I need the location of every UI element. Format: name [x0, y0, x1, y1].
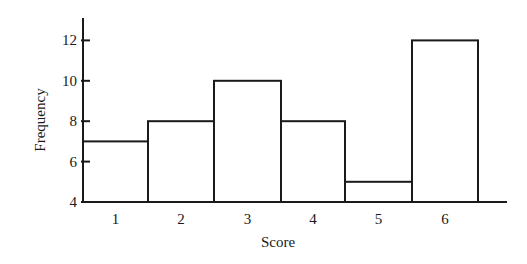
- y-tick-label: 4: [70, 194, 78, 210]
- x-tick-label: 3: [244, 211, 252, 227]
- bar-3: [214, 81, 281, 202]
- y-tick-label: 12: [62, 32, 77, 48]
- x-axis: 123456: [83, 202, 507, 227]
- x-tick-label: 1: [112, 211, 120, 227]
- y-tick-label: 10: [62, 73, 77, 89]
- bar-4: [281, 121, 345, 202]
- y-axis-title: Frequency: [32, 88, 48, 152]
- bars-group: [83, 40, 478, 202]
- x-axis-title: Score: [261, 234, 295, 250]
- y-tick-label: 6: [70, 154, 78, 170]
- bar-5: [345, 182, 412, 202]
- y-tick-label: 8: [70, 113, 78, 129]
- x-tick-label: 2: [177, 211, 185, 227]
- bar-6: [412, 40, 478, 202]
- bar-1: [83, 141, 148, 202]
- x-tick-label: 4: [309, 211, 317, 227]
- x-tick-label: 5: [375, 211, 383, 227]
- histogram-chart: 4681012 123456 Score Frequency: [0, 0, 527, 264]
- x-tick-label: 6: [441, 211, 449, 227]
- bar-2: [148, 121, 214, 202]
